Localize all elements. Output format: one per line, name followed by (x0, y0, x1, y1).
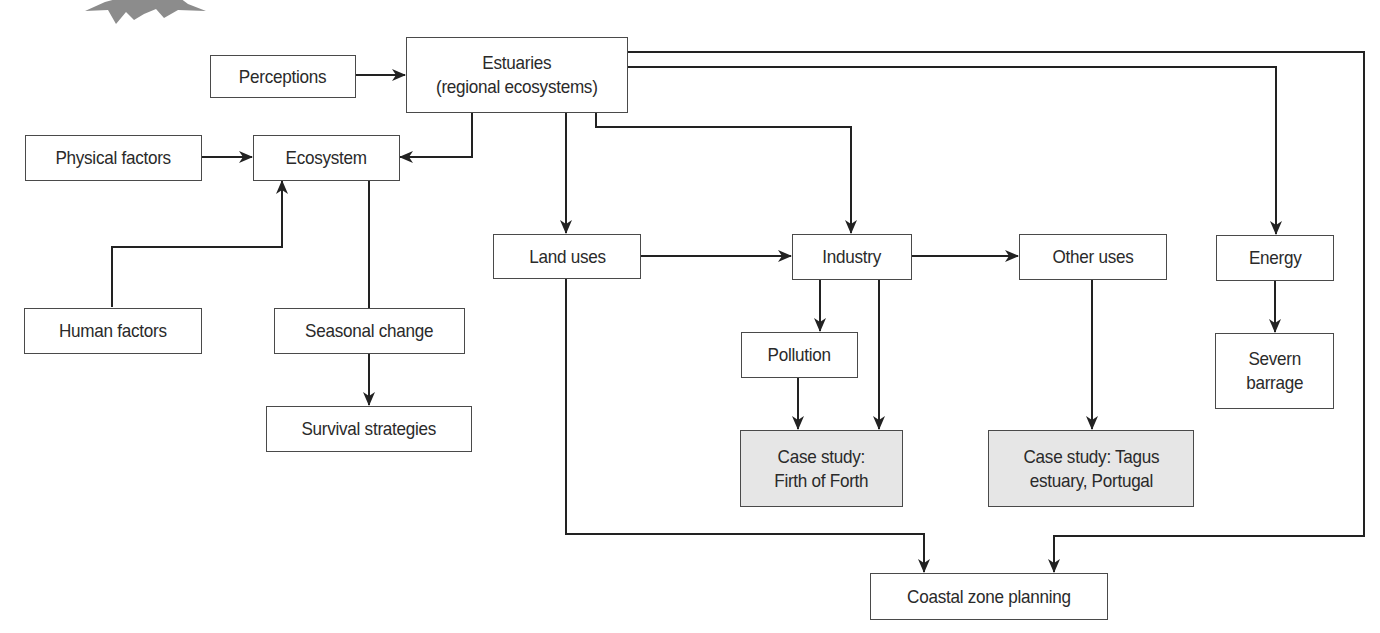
node-industry: Industry (792, 234, 912, 280)
node-survival-strategies: Survival strategies (266, 406, 472, 452)
node-label: Pollution (768, 343, 831, 367)
node-label: Case study: Firth of Forth (774, 445, 868, 493)
estuaries-flowchart: Perceptions Estuaries (regional ecosyste… (0, 0, 1380, 633)
node-label: Severn barrage (1246, 347, 1303, 395)
node-label: Industry (823, 245, 882, 269)
node-perceptions: Perceptions (210, 55, 356, 98)
node-label: Physical factors (56, 146, 171, 170)
node-label: Estuaries (regional ecosystems) (436, 51, 598, 99)
node-case-study-firth-of-forth: Case study: Firth of Forth (740, 430, 903, 507)
node-physical-factors: Physical factors (25, 135, 202, 181)
node-label: Land uses (529, 245, 605, 269)
node-severn-barrage: Severn barrage (1215, 333, 1334, 409)
node-energy: Energy (1216, 235, 1334, 281)
decorative-splat-icon (60, 0, 220, 28)
node-land-uses: Land uses (493, 234, 641, 279)
node-label: Other uses (1053, 245, 1134, 269)
node-label: Seasonal change (305, 319, 433, 343)
node-label: Survival strategies (302, 417, 437, 441)
node-coastal-zone-planning: Coastal zone planning (870, 573, 1108, 620)
node-label: Case study: Tagus estuary, Portugal (1023, 445, 1159, 493)
node-label: Ecosystem (286, 146, 367, 170)
node-estuaries: Estuaries (regional ecosystems) (406, 37, 628, 113)
node-seasonal-change: Seasonal change (274, 308, 465, 354)
node-other-uses: Other uses (1019, 234, 1167, 280)
node-label: Coastal zone planning (907, 585, 1071, 609)
node-case-study-tagus: Case study: Tagus estuary, Portugal (988, 430, 1194, 507)
node-human-factors: Human factors (24, 308, 202, 354)
connector-lines (0, 0, 1380, 633)
node-label: Perceptions (239, 65, 326, 89)
node-label: Energy (1249, 246, 1302, 270)
node-label: Human factors (59, 319, 167, 343)
node-ecosystem: Ecosystem (253, 135, 400, 181)
node-pollution: Pollution (741, 332, 858, 378)
